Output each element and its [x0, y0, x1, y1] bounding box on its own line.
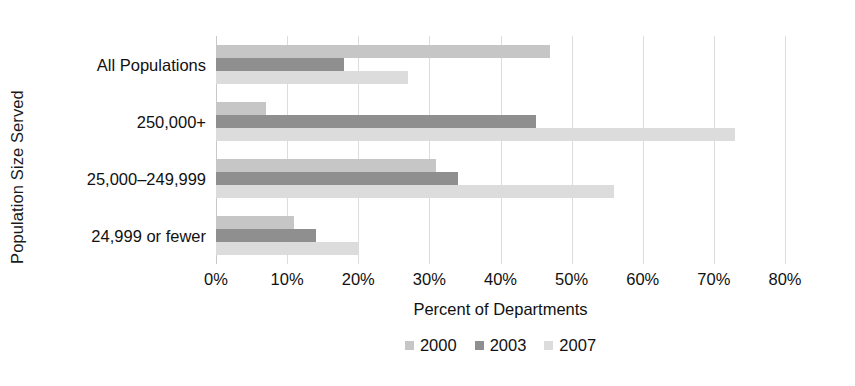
y-category-label: 250,000+: [137, 110, 206, 134]
x-axis-tick-labels: 0%10%20%30%40%50%60%70%80%: [216, 266, 785, 292]
legend-label: 2007: [559, 336, 596, 355]
bar-2000: [216, 159, 436, 172]
bar-group: [216, 216, 785, 255]
bar-2003: [216, 172, 458, 185]
bar-2003: [216, 115, 536, 128]
bar-group: [216, 159, 785, 198]
bar-group: [216, 45, 785, 84]
bar-2000: [216, 45, 550, 58]
legend-item-2007[interactable]: 2007: [544, 336, 596, 355]
legend-item-2003[interactable]: 2003: [475, 336, 527, 355]
x-tick-label: 10%: [271, 270, 304, 289]
plot-area: [216, 36, 785, 264]
bar-2007: [216, 128, 735, 141]
legend-swatch-2007-icon: [544, 341, 553, 350]
y-category-label: 25,000–249,999: [87, 167, 206, 191]
x-tick-label: 70%: [697, 270, 730, 289]
y-axis-category-labels: All Populations250,000+25,000–249,99924,…: [36, 36, 212, 264]
legend-label: 2000: [420, 336, 457, 355]
bar-2000: [216, 102, 266, 115]
bar-group: [216, 102, 785, 141]
y-axis-title: Population Size Served: [0, 32, 34, 322]
x-tick-label: 20%: [342, 270, 375, 289]
bar-2007: [216, 185, 614, 198]
legend-item-2000[interactable]: 2000: [405, 336, 457, 355]
legend-label: 2003: [490, 336, 527, 355]
bar-2007: [216, 242, 358, 255]
legend-swatch-2003-icon: [475, 341, 484, 350]
bar-2000: [216, 216, 294, 229]
x-axis-title: Percent of Departments: [216, 300, 785, 319]
bar-2003: [216, 229, 316, 242]
legend-swatch-2000-icon: [405, 341, 414, 350]
x-tick-label: 80%: [768, 270, 801, 289]
chart-legend: 200020032007: [216, 336, 785, 355]
y-category-label: 24,999 or fewer: [91, 224, 206, 248]
x-tick-label: 30%: [413, 270, 446, 289]
bar-chart: Population Size Served All Populations25…: [0, 0, 855, 386]
gridline-80: [785, 36, 786, 264]
x-tick-label: 60%: [626, 270, 659, 289]
bar-2003: [216, 58, 344, 71]
x-tick-label: 0%: [204, 270, 228, 289]
x-tick-label: 50%: [555, 270, 588, 289]
x-tick-label: 40%: [484, 270, 517, 289]
bar-2007: [216, 71, 408, 84]
y-category-label: All Populations: [97, 53, 206, 77]
